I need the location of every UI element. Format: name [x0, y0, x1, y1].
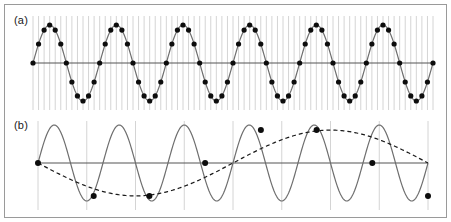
figure-root: (a) (b): [0, 0, 451, 222]
sample-dot: [125, 41, 130, 46]
sample-dot: [203, 79, 208, 84]
sample-dot: [425, 79, 430, 84]
sample-dot: [42, 27, 47, 32]
sample-dot: [186, 27, 191, 32]
sample-dot: [330, 60, 335, 65]
sample-dot: [130, 60, 135, 65]
sample-dot: [325, 41, 330, 46]
sample-dot: [197, 60, 202, 65]
sample-dot: [147, 98, 152, 103]
sample-dot: [425, 193, 431, 199]
sample-dot: [153, 93, 158, 98]
sample-dot: [30, 60, 35, 65]
sample-dot: [47, 22, 52, 27]
sample-dot: [35, 160, 41, 166]
sample-dot: [36, 41, 41, 46]
panel-b: (b): [0, 111, 451, 222]
sample-dot: [230, 60, 235, 65]
sample-dot: [146, 193, 152, 199]
sample-dot: [136, 79, 141, 84]
sample-dot: [236, 41, 241, 46]
sample-dot: [403, 79, 408, 84]
sample-dot: [58, 41, 63, 46]
sample-dot: [414, 98, 419, 103]
sample-dot: [247, 22, 252, 27]
sample-dot: [258, 127, 264, 133]
panel-a-label: (a): [14, 14, 28, 26]
sample-dot: [286, 93, 291, 98]
sample-dot: [347, 98, 352, 103]
sample-dot: [69, 79, 74, 84]
sample-dot: [386, 27, 391, 32]
sample-dot: [314, 127, 320, 133]
sample-dot: [164, 60, 169, 65]
sample-dot: [108, 27, 113, 32]
sample-dot: [275, 93, 280, 98]
sample-dot: [430, 60, 435, 65]
sample-dot: [308, 27, 313, 32]
sample-dot: [253, 27, 258, 32]
sample-dot: [314, 22, 319, 27]
sample-dot: [408, 93, 413, 98]
sample-dot: [369, 160, 375, 166]
sample-dot: [303, 41, 308, 46]
sample-dot: [142, 93, 147, 98]
sample-dot: [202, 160, 208, 166]
sample-dot: [353, 93, 358, 98]
sample-dot: [225, 79, 230, 84]
sample-dot: [53, 27, 58, 32]
sample-dot: [364, 60, 369, 65]
sample-dot: [292, 79, 297, 84]
sample-dot: [80, 98, 85, 103]
sample-dot: [358, 79, 363, 84]
panel-a-plot: [0, 0, 451, 111]
sample-dot: [114, 22, 119, 27]
sample-dot: [280, 98, 285, 103]
sample-dot: [158, 79, 163, 84]
sample-dot: [92, 79, 97, 84]
sample-dot: [103, 41, 108, 46]
sample-dot: [397, 60, 402, 65]
sample-dot: [214, 98, 219, 103]
sample-dot: [319, 27, 324, 32]
sample-dot: [375, 27, 380, 32]
sample-dot: [219, 93, 224, 98]
sample-dot: [175, 27, 180, 32]
sample-dot: [369, 41, 374, 46]
sample-dot: [392, 41, 397, 46]
sample-dot: [336, 79, 341, 84]
sample-dot: [75, 93, 80, 98]
sample-dot: [64, 60, 69, 65]
sample-dot: [269, 79, 274, 84]
sample-dot: [86, 93, 91, 98]
sample-dot: [192, 41, 197, 46]
sample-dot: [380, 22, 385, 27]
sample-dot: [208, 93, 213, 98]
panel-b-label: (b): [14, 119, 28, 131]
sample-dot: [342, 93, 347, 98]
sample-dot: [180, 22, 185, 27]
sample-dot: [419, 93, 424, 98]
panel-a: (a): [0, 0, 451, 111]
sample-dot: [264, 60, 269, 65]
sample-dot: [91, 193, 97, 199]
sample-dot: [258, 41, 263, 46]
sample-dot: [297, 60, 302, 65]
panel-b-plot: [0, 111, 451, 222]
sample-dot: [97, 60, 102, 65]
sample-dot: [242, 27, 247, 32]
sample-dot: [119, 27, 124, 32]
sample-dot: [169, 41, 174, 46]
